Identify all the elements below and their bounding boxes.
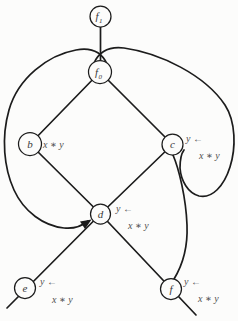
dependency-graph-figure: f1f0bcdefx ∗ yy ←x ∗ yy ←x ∗ yy ←x ∗ yy … (0, 0, 238, 321)
label-e-assign: y ← (39, 276, 57, 287)
label-d-assign: y ← (115, 203, 133, 214)
node-label-c: c (170, 138, 175, 150)
label-b-op: x ∗ y (42, 139, 64, 150)
edge-f0-b (30, 72, 100, 144)
label-f-assign: y ← (183, 276, 201, 287)
label-c-assign: y ← (185, 133, 203, 144)
edge-c-d (101, 145, 173, 215)
edge-f0-c (100, 72, 173, 145)
label-d-op: x ∗ y (127, 220, 149, 231)
edge-b-d (30, 144, 101, 214)
node-label-b: b (27, 138, 33, 150)
label-f-op: x ∗ y (197, 293, 219, 304)
graph-canvas: f1f0bcdefx ∗ yy ←x ∗ yy ←x ∗ yy ←x ∗ yy … (0, 0, 238, 321)
label-e-op: x ∗ y (51, 294, 73, 305)
label-c-op: x ∗ y (198, 150, 220, 161)
loop-f0-right-to-c (94, 48, 234, 197)
node-label-d: d (98, 208, 104, 220)
node-label-e: e (23, 282, 28, 294)
